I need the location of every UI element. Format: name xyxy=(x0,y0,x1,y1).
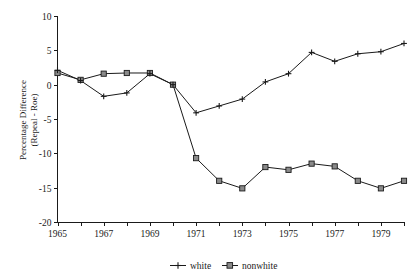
data-point-nonwhite-1980 xyxy=(401,178,406,183)
y-tick-label-0: 0 xyxy=(47,81,52,91)
line-chart: Percentage Difference (Repeal - Roe) 105… xyxy=(0,0,419,278)
data-point-nonwhite-1973 xyxy=(240,186,245,191)
y-tick-label--5: -5 xyxy=(44,115,52,125)
data-point-nonwhite-1976 xyxy=(309,161,314,166)
data-point-nonwhite-1968 xyxy=(124,70,129,75)
y-axis-title-line1: Percentage Difference xyxy=(18,80,28,160)
x-tick-label-1975: 1975 xyxy=(279,229,298,239)
chart-container: Percentage Difference (Repeal - Roe) 105… xyxy=(0,0,419,278)
y-tick-label-5: 5 xyxy=(47,46,52,56)
y-tick-label--15: -15 xyxy=(39,184,52,194)
x-tick-label-1979: 1979 xyxy=(371,229,390,239)
x-tick-label-1977: 1977 xyxy=(325,229,344,239)
legend-marker-square-icon xyxy=(227,263,233,269)
y-axis-title-line2: (Repeal - Roe) xyxy=(29,94,39,147)
x-tick-label-1969: 1969 xyxy=(140,229,159,239)
y-tick-label--20: -20 xyxy=(39,218,52,228)
data-point-nonwhite-1975 xyxy=(286,167,291,172)
data-point-nonwhite-1971 xyxy=(194,156,199,161)
x-tick-label-1967: 1967 xyxy=(94,229,113,239)
data-point-nonwhite-1972 xyxy=(217,178,222,183)
legend-label-nonwhite: nonwhite xyxy=(242,261,277,271)
data-point-nonwhite-1967 xyxy=(101,71,106,76)
y-tick-label--10: -10 xyxy=(39,149,52,159)
data-point-nonwhite-1974 xyxy=(263,164,268,169)
data-point-nonwhite-1979 xyxy=(378,186,383,191)
x-tick-label-1973: 1973 xyxy=(233,229,252,239)
x-tick-label-1971: 1971 xyxy=(187,229,206,239)
legend-label-white: white xyxy=(190,261,211,271)
data-point-nonwhite-1978 xyxy=(355,178,360,183)
y-tick-label-10: 10 xyxy=(42,12,52,22)
x-tick-label-1965: 1965 xyxy=(48,229,67,239)
data-point-nonwhite-1977 xyxy=(332,164,337,169)
